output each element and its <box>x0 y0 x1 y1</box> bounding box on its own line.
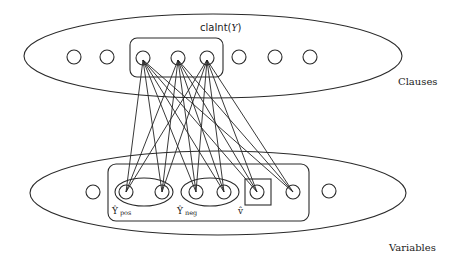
variable-node-v0 <box>86 185 100 199</box>
v-hat-label: v̂ <box>237 206 244 216</box>
edge-c3-v2 <box>143 60 162 192</box>
clause-node-c6 <box>232 50 246 64</box>
clause-interaction-label: claInt(Y) <box>200 22 241 33</box>
clause-node-c2 <box>100 50 114 64</box>
edge-c5-v6 <box>207 60 293 192</box>
y-neg-label: Ŷneg <box>176 205 197 217</box>
clause-node-c7 <box>268 50 282 64</box>
variable-nodes-group <box>86 184 336 199</box>
edge-c5-v3 <box>196 60 207 192</box>
edge-c4-v3 <box>178 60 196 192</box>
clauses-label: Clauses <box>398 76 437 87</box>
edge-c3-v1 <box>126 60 143 192</box>
edge-c3-v4 <box>143 60 224 192</box>
clause-node-c1 <box>67 50 81 64</box>
y-pos-label: Ŷpos <box>111 205 131 217</box>
variable-node-v7 <box>322 184 336 198</box>
y-neg-group-ellipse <box>181 178 239 206</box>
edge-c5-v4 <box>207 60 224 192</box>
edges-group <box>126 60 293 192</box>
edge-c3-v3 <box>143 60 196 192</box>
y-pos-group-ellipse <box>115 178 173 206</box>
variables-label: Variables <box>388 242 436 253</box>
clause-nodes-group <box>67 50 317 65</box>
edge-c5-v1 <box>126 60 207 192</box>
clause-node-c8 <box>303 50 317 64</box>
bipartite-clause-variable-diagram: claInt(Y) Clauses Ŷpos Ŷneg v̂ Variables <box>0 0 459 264</box>
